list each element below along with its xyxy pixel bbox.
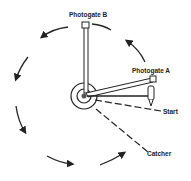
catcher-line — [96, 109, 148, 152]
bob — [148, 86, 154, 100]
bob-tip — [149, 100, 153, 106]
photogate-b — [82, 22, 89, 28]
hub-axle — [82, 94, 87, 99]
arm-a — [86, 78, 153, 97]
label-start: Start — [163, 108, 178, 115]
arm-b — [84, 25, 88, 93]
arc-top — [92, 24, 111, 30]
label-catcher: Catcher — [147, 150, 171, 157]
label-photogate-a: Photogate A — [132, 67, 170, 74]
label-photogate-b: Photogate B — [69, 11, 107, 18]
photogate-a — [150, 76, 156, 82]
